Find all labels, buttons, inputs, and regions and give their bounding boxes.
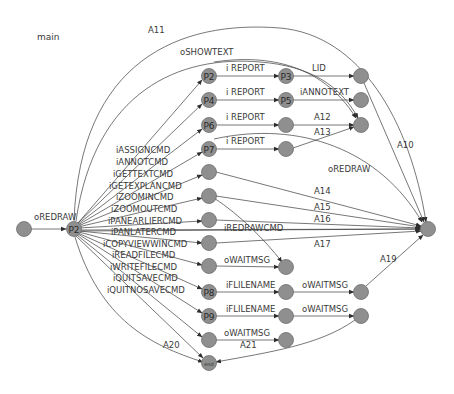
edge-label: iFLILENAME [226,280,275,290]
edge-label: LID [312,63,326,73]
state-node-c2_n3 [279,118,294,133]
edge-label: i REPORT [226,136,265,146]
edge-label: oWAITMSG [302,280,348,290]
node-circle [421,222,436,237]
node-circle [354,309,369,324]
transition-edge [364,83,424,222]
edge-label: oREDRAW [328,164,371,174]
node-label: P8 [203,288,214,298]
node-circle [279,333,294,348]
state-node-c1_p6: P6 [202,118,217,133]
edge-label: iFLILENAME [226,304,275,314]
node-circle [354,69,369,84]
edge-label: A12 [314,112,331,122]
state-node-c1_p2: P2 [202,69,217,84]
node-label: P2 [203,72,214,82]
node-circle [354,285,369,300]
node-circle [354,118,369,133]
state-node-final [421,222,436,237]
node-circle [202,165,217,180]
node-label: P7 [203,145,214,155]
state-node-c1_n7 [202,213,217,228]
node-circle [202,189,217,204]
state-node-start [17,222,32,237]
edge-label: iZOOMOUTCMD [111,204,178,214]
node-circle [202,236,217,251]
state-node-c2_p3: P3 [279,69,294,84]
edge-label: iREDRAWCMD [224,223,284,233]
state-node-c1_p9: P9 [202,309,217,324]
state-node-c2_n4 [279,142,294,157]
edge-label: A13 [314,127,331,137]
transition-edge [216,266,279,267]
state-node-c2_p8b [279,285,294,300]
node-circle [17,222,32,237]
edge-label: iQUITSAVECMD [113,273,178,283]
edge-label: i REPORT [226,112,265,122]
edge-label: iPANLATERCMD [111,227,177,237]
edge-label: iANNOTCMD [116,157,169,167]
node-label: P4 [203,96,214,106]
node-circle [279,309,294,324]
edge-label: oSHOWTEXT [180,47,234,57]
edge-label: iGETEXPLANCMD [109,181,182,191]
state-node-c1_n9 [202,259,217,274]
state-node-c3_n1 [354,69,369,84]
edge-label: iWRITEFILECMD [110,262,178,272]
state-node-c1_n6 [202,189,217,204]
node-circle [354,93,369,108]
edge-label: iGETTEXTCMD [113,169,174,179]
edge-label: A19 [380,254,397,264]
diagram-title: main [37,32,60,42]
node-label: P6 [203,121,214,131]
state-node-c2_p9b [279,309,294,324]
state-node-c3_n2 [354,93,369,108]
edge-label: A15 [314,202,331,212]
node-label: P3 [280,72,291,82]
node-circle [279,260,294,275]
edge-label: A10 [397,140,414,150]
node-circle [279,285,294,300]
edge-label: iANNOTEXT [300,87,350,97]
state-node-c2_wait [279,260,294,275]
node-label: P9 [203,312,214,322]
state-diagram: main oREDRAWA11oSHOWTEXTiASSIGNCMDiANNOT… [0,0,454,394]
node-label: P2 [68,225,79,235]
node-circle [279,118,294,133]
state-node-c3_n5 [354,309,369,324]
state-node-end: end [202,356,217,371]
edge-label: i REPORT [226,63,265,73]
state-node-c2_p5: P5 [279,93,294,108]
state-node-c1_p8: P8 [202,285,217,300]
edge-label: iPANEARLIERCMD [108,216,183,226]
node-circle [202,259,217,274]
edge-label: A14 [314,186,331,196]
edge-label: i REPORT [226,87,265,97]
state-node-c1_n12 [202,333,217,348]
edge-label: oWAITMSG [302,304,348,314]
edge-label: iASSIGNCMD [116,145,171,155]
node-circle [202,213,217,228]
edge-label: iCOPYVIEWWINCMD [103,239,188,249]
edge-label: A16 [314,214,331,224]
state-node-c1_n8 [202,236,217,251]
edge-label: A17 [314,239,331,249]
edge-label: oWAITMSG [224,328,270,338]
state-node-hub: P2 [67,222,82,237]
edge-label: iQUITNOSAVECMD [107,285,185,295]
node-circle [202,333,217,348]
state-node-c1_n5 [202,165,217,180]
node-circle [279,142,294,157]
node-label: end [204,361,213,367]
edge-label: oWAITMSG [224,255,270,265]
state-node-c1_p7: P7 [202,142,217,157]
edge-label: oREDRAW [34,212,77,222]
edge-label: iREADFILECMD [112,250,176,260]
state-node-c3_n4 [354,285,369,300]
state-node-c3_n3 [354,118,369,133]
edge-label: A11 [148,25,165,35]
edge-label: A20 [163,340,180,350]
node-label: P5 [280,96,291,106]
edge-label: A21 [240,340,257,350]
state-node-c2_n12b [279,333,294,348]
